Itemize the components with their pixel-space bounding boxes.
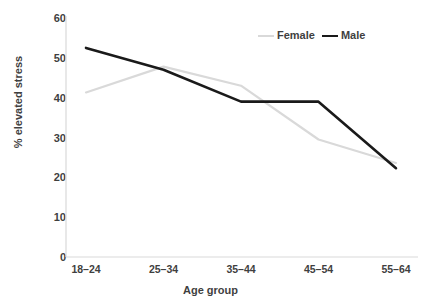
x-axis-title: Age group xyxy=(0,284,421,296)
x-axis-tick-4: 55–64 xyxy=(381,264,410,275)
legend-entry-male[interactable]: Male xyxy=(322,30,365,41)
plot-svg xyxy=(0,0,421,306)
line-chart: 0102030405060 % elevated stress 18–2425–… xyxy=(0,0,421,306)
legend-label-female: Female xyxy=(277,30,315,41)
chart-legend: FemaleMale xyxy=(258,30,365,41)
plot-area: 18–2425–3435–4445–5455–64 xyxy=(0,0,421,306)
series-line-female xyxy=(86,67,396,163)
legend-swatch-female-icon xyxy=(258,35,274,37)
legend-label-male: Male xyxy=(341,30,365,41)
x-axis-tick-1: 25–34 xyxy=(149,264,178,275)
x-axis-tick-2: 35–44 xyxy=(226,264,255,275)
series-group xyxy=(86,48,396,168)
x-axis-tick-0: 18–24 xyxy=(71,264,100,275)
series-line-male xyxy=(86,48,396,168)
legend-swatch-male-icon xyxy=(322,35,338,37)
x-axis-tick-3: 45–54 xyxy=(304,264,333,275)
legend-entry-female[interactable]: Female xyxy=(258,30,315,41)
